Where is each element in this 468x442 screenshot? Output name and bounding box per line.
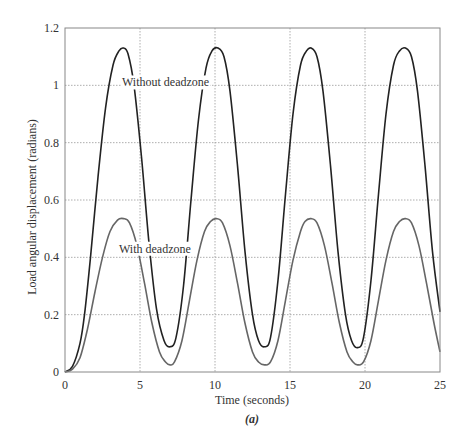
y-tick-label: 0.8 <box>44 136 59 150</box>
y-tick-label: 0 <box>53 365 59 379</box>
x-tick-label: 20 <box>359 378 371 392</box>
x-tick-label: 25 <box>434 378 446 392</box>
annotation-with-deadzone: With deadzone <box>118 242 192 256</box>
line-chart: Without deadzoneWith deadzone 0510152025… <box>0 0 468 442</box>
y-tick-label: 0.2 <box>44 308 59 322</box>
data-series <box>65 48 440 372</box>
x-tick-label: 0 <box>62 378 68 392</box>
x-tick-label: 15 <box>284 378 296 392</box>
figure-caption: (a) <box>245 412 259 426</box>
svg-text:Without deadzone: Without deadzone <box>122 75 209 89</box>
y-tick-label: 1 <box>53 78 59 92</box>
x-axis-label: Time (seconds) <box>215 393 289 407</box>
x-tick-label: 5 <box>137 378 143 392</box>
y-axis-ticks: 00.20.40.60.811.2 <box>44 21 59 379</box>
series-without-deadzone <box>65 48 440 372</box>
svg-text:With deadzone: With deadzone <box>119 242 191 256</box>
y-axis-label: Load angular displacement (radians) <box>25 119 39 295</box>
x-tick-label: 10 <box>209 378 221 392</box>
y-tick-label: 1.2 <box>44 21 59 35</box>
y-tick-label: 0.4 <box>44 250 59 264</box>
x-axis-ticks: 0510152025 <box>62 378 446 392</box>
y-tick-label: 0.6 <box>44 193 59 207</box>
annotation-without-deadzone: Without deadzone <box>121 75 210 89</box>
